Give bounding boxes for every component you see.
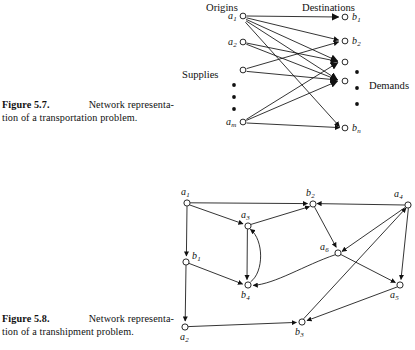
edge-a2-b3	[188, 322, 296, 326]
edge-b4-a3-curve	[250, 229, 260, 281]
node-a1	[240, 13, 246, 19]
edge-a3-b2	[251, 207, 310, 225]
edge-a1-b2	[246, 18, 338, 40]
node-dest-3	[342, 59, 348, 65]
node-a2	[182, 324, 188, 330]
node-label-b2: b2	[352, 35, 361, 46]
destination-nodes	[342, 14, 348, 131]
node-label-a2-t: a2	[180, 331, 189, 342]
edge-am-b4	[246, 81, 337, 120]
node-dest-4	[342, 78, 348, 84]
node-label-am: am	[226, 116, 236, 127]
figure-5-8-transhipment	[0, 0, 415, 350]
caption-5-8-line-1: Figure 5.8. Network representa-	[2, 313, 174, 326]
edge-a1-b1	[247, 16, 339, 17]
caption-5-7-line-2: tion of a transportation problem.	[2, 112, 174, 125]
ellipsis-dot	[355, 86, 359, 90]
node-origin-3	[240, 67, 246, 73]
demands-header: Demands	[369, 80, 409, 91]
node-a3	[245, 223, 251, 229]
edge-a4-b2	[317, 204, 405, 205]
node-label-b2-t: b2	[306, 187, 315, 198]
node-a4	[405, 202, 411, 208]
figure-5-7-transportation	[0, 0, 415, 350]
edge-a3-b2	[247, 42, 339, 69]
node-a6	[335, 250, 341, 256]
node-b3	[299, 319, 305, 325]
caption-5-8-line-1-rest: Network representa-	[89, 313, 174, 326]
origin-nodes	[240, 13, 246, 125]
ellipsis-dot	[355, 70, 359, 74]
destination-ellipsis	[355, 70, 359, 106]
node-b4	[245, 282, 251, 288]
node-label-bn: bn	[352, 122, 361, 133]
edge-a1-bn	[245, 22, 339, 126]
transhipment-edges	[185, 203, 408, 327]
node-label-b4-t: b4	[241, 289, 250, 300]
transhipment-nodes	[182, 200, 411, 330]
edge-a1-a3	[190, 205, 243, 224]
node-a1	[184, 200, 190, 206]
ellipsis-dot	[232, 95, 236, 99]
ellipsis-dot	[232, 83, 236, 87]
edge-am-b3	[246, 63, 337, 120]
node-label-a1: a1	[228, 10, 237, 21]
edge-b1-b4	[189, 263, 243, 284]
node-b1	[183, 259, 189, 265]
node-b1	[342, 14, 348, 20]
edge-a3-b4	[247, 71, 338, 80]
node-b2	[342, 38, 348, 44]
caption-figure-5-8: Figure 5.8. Network representa- tion of …	[2, 313, 174, 338]
node-am	[240, 119, 246, 125]
edge-am-bn	[247, 123, 340, 128]
destinations-header: Destinations	[302, 2, 355, 13]
node-bn	[342, 125, 348, 131]
node-a2	[240, 39, 246, 45]
edge-b3-a4	[304, 208, 406, 319]
ellipsis-dot	[355, 102, 359, 106]
node-label-a1-t: a1	[181, 186, 190, 197]
ellipsis-dot	[232, 107, 236, 111]
node-label-a5-t: a5	[390, 289, 399, 300]
node-label-a4-t: a4	[394, 188, 403, 199]
caption-5-7-lead: Figure 5.7.	[2, 99, 50, 112]
node-label-a3-t: a3	[241, 209, 250, 220]
caption-5-8-lead: Figure 5.8.	[2, 313, 50, 326]
origin-ellipsis	[232, 83, 236, 111]
edge-a6-b4	[253, 255, 335, 286]
transportation-edges	[245, 16, 339, 128]
caption-5-8-line-2: tion of a transhipment problem.	[2, 326, 174, 339]
node-label-a6-t: a6	[320, 241, 329, 252]
node-a5	[397, 282, 403, 288]
node-b2	[310, 201, 316, 207]
edge-a2-b4	[246, 44, 337, 80]
supplies-header: Supplies	[182, 69, 219, 80]
edge-a6-a5	[341, 255, 395, 283]
node-label-a2: a2	[228, 36, 237, 47]
edge-b1-a2	[185, 265, 186, 321]
edge-a4-a5	[401, 208, 408, 279]
transportation-graph-canvas	[0, 0, 415, 350]
edge-a1-b2	[190, 203, 307, 204]
node-label-b1: b1	[352, 11, 361, 22]
edge-a4-a6	[342, 207, 405, 251]
caption-5-7-line-1-rest: Network representa-	[89, 99, 174, 112]
edge-a2-b3	[246, 43, 337, 61]
node-label-b1-t: b1	[192, 250, 201, 261]
edge-a1-b4	[246, 21, 337, 80]
edge-a1-b3	[246, 19, 337, 61]
edge-a5-b3	[307, 287, 397, 321]
caption-5-7-line-1: Figure 5.7. Network representa-	[2, 99, 174, 112]
transhipment-graph-canvas	[0, 0, 415, 350]
caption-figure-5-7: Figure 5.7. Network representa- tion of …	[2, 99, 174, 124]
node-label-b3-t: b3	[295, 326, 304, 337]
edge-a1-b1	[186, 206, 187, 256]
